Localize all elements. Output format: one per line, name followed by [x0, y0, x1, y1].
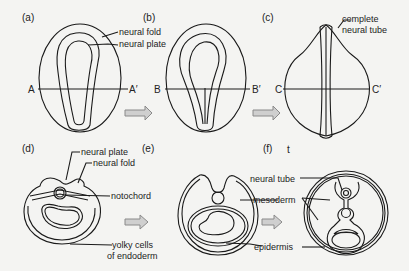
label-notochord: notochord — [111, 191, 151, 201]
label-mesoderm: mesoderm — [253, 195, 296, 205]
label-of-endoderm: of endoderm — [107, 251, 158, 261]
section-c-right: C′ — [372, 84, 381, 95]
arrow-e-to-f — [262, 215, 282, 229]
section-c-left: C — [275, 84, 282, 95]
label-complete-neural-tube: neural tube — [342, 25, 387, 35]
section-a-left: A — [28, 84, 35, 95]
stray-mark: t — [287, 144, 290, 155]
panel-label-b: (b) — [143, 12, 155, 23]
section-b-right: B′ — [252, 84, 261, 95]
embryo-c — [285, 25, 370, 139]
label-complete: complete — [342, 14, 379, 24]
section-b-left: B — [154, 84, 161, 95]
diagram-drawing — [0, 0, 409, 271]
label-neural-plate-a: neural plate — [119, 39, 166, 49]
panel-label-e: (e) — [142, 143, 154, 154]
arrow-a-to-b — [125, 106, 152, 120]
panel-label-c: (c) — [262, 12, 274, 23]
neurulation-diagram: (a) (b) (c) (d) (e) (f) t A A′ B B′ C C′… — [0, 0, 409, 271]
label-epidermis: epidermis — [254, 242, 293, 252]
cross-section-f — [304, 171, 388, 255]
label-neural-fold-a: neural fold — [119, 27, 161, 37]
section-a-right: A′ — [129, 84, 138, 95]
label-neural-tube: neural tube — [250, 174, 295, 184]
arrow-d-to-e — [125, 215, 148, 229]
panel-label-d: (d) — [22, 143, 34, 154]
panel-label-a: (a) — [22, 12, 34, 23]
label-neural-fold-d: neural fold — [93, 158, 135, 168]
embryo-a — [39, 24, 121, 132]
cross-section-e — [178, 175, 258, 255]
arrow-b-to-c — [253, 106, 280, 120]
label-yolky-cells: yolky cells — [112, 240, 153, 250]
embryo-b — [166, 24, 246, 132]
cross-section-d — [24, 178, 100, 244]
panel-label-f: (f) — [263, 143, 272, 154]
label-neural-plate-d: neural plate — [81, 147, 128, 157]
